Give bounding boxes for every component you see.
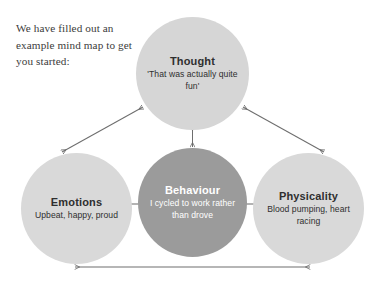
- node-behaviour[interactable]: Behaviour I cycled to work rather than d…: [138, 148, 247, 257]
- node-physicality-description: Blood pumping, heart racing: [262, 204, 355, 227]
- node-emotions[interactable]: Emotions Upbeat, happy, proud: [21, 153, 132, 264]
- connector-thought-physicality: [243, 107, 324, 152]
- node-thought-description: 'That was actually quite fun': [147, 69, 237, 92]
- node-behaviour-description: I cycled to work rather than drove: [146, 198, 240, 221]
- node-thought-title: Thought: [170, 55, 215, 67]
- node-emotions-title: Emotions: [51, 196, 102, 208]
- node-physicality-title: Physicality: [279, 190, 338, 202]
- mind-map-diagram: We have filled out an example mind map t…: [0, 0, 385, 285]
- node-physicality[interactable]: Physicality Blood pumping, heart racing: [253, 153, 364, 264]
- connector-emotions-thought: [62, 107, 143, 152]
- node-behaviour-title: Behaviour: [165, 184, 220, 196]
- node-emotions-description: Upbeat, happy, proud: [35, 210, 118, 221]
- node-thought[interactable]: Thought 'That was actually quite fun': [136, 17, 249, 130]
